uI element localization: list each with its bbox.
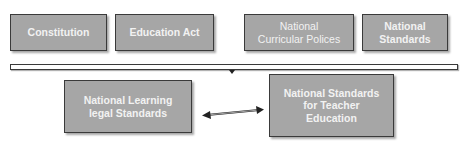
box-national-learning-line2: legal Standards (89, 107, 167, 119)
box-national-standards-line1: National (384, 20, 425, 32)
box-education-act-label: Education Act (129, 26, 199, 38)
box-teacher-education-line1: National Standards (284, 87, 380, 99)
box-teacher-education-line2: for Teacher (303, 99, 359, 111)
box-national-learning-line1: National Learning (84, 94, 173, 106)
box-teacher-education-line3: Education (306, 112, 357, 124)
double-arrow-icon (200, 104, 266, 122)
box-national-learning-legal-standards: National Learning legal Standards (64, 80, 192, 133)
box-constitution: Constitution (10, 14, 107, 51)
box-national-curricular-polices-line2: Curricular Polices (258, 33, 340, 45)
box-constitution-label: Constitution (28, 26, 90, 38)
down-pointer-icon (229, 70, 235, 74)
box-national-standards: National Standards (362, 14, 448, 51)
box-national-curricular-polices: National Curricular Polices (244, 14, 354, 51)
box-national-curricular-polices-line1: National (280, 20, 319, 32)
box-education-act: Education Act (115, 14, 214, 51)
box-national-standards-teacher-education: National Standards for Teacher Education (269, 74, 394, 137)
box-national-standards-line2: Standards (379, 33, 430, 45)
diagram-title-cropped (96, 0, 368, 3)
